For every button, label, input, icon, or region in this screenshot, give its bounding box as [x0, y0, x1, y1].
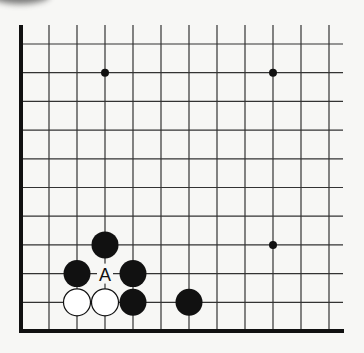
- white-stone-icon: [92, 289, 119, 316]
- star-point-icon: [269, 241, 277, 249]
- board-grid: [19, 25, 344, 333]
- black-stone-icon: [176, 289, 203, 316]
- star-point-icon: [101, 69, 109, 77]
- star-point-icon: [269, 69, 277, 77]
- go-board: A: [0, 0, 364, 353]
- black-stone-icon: [120, 289, 147, 316]
- board-labels: A: [97, 264, 113, 285]
- white-stone-icon: [64, 289, 91, 316]
- black-stone-icon: [64, 260, 91, 287]
- black-stone-icon: [120, 260, 147, 287]
- black-stone-icon: [92, 231, 119, 258]
- point-label-a: A: [99, 265, 111, 285]
